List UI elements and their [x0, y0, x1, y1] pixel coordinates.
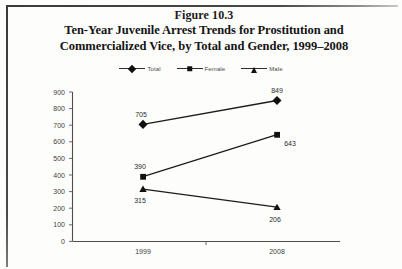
line-chart-svg: 900 800 700 600 500 400 300 200 100 0 19… [0, 0, 402, 269]
data-label-total-2008: 849 [271, 87, 283, 94]
y-tick-label-400: 400 [53, 172, 65, 179]
chart-plot-area: 900 800 700 600 500 400 300 200 100 0 19… [0, 0, 402, 269]
data-label-male-1999: 315 [134, 197, 146, 204]
y-tick-label-300: 300 [53, 188, 65, 195]
y-tick-label-0: 0 [61, 238, 65, 245]
data-label-female-1999: 390 [134, 163, 146, 170]
series-line-female [143, 135, 277, 177]
figure-page: Figure 10.3 Ten-Year Juvenile Arrest Tre… [0, 0, 402, 269]
y-tick-label-200: 200 [53, 205, 65, 212]
x-tick-label-1999: 1999 [135, 248, 151, 255]
data-point-female-1999 [140, 174, 146, 180]
series-line-male [143, 189, 277, 207]
data-label-total-1999: 705 [135, 111, 147, 118]
data-point-female-2008 [274, 132, 280, 138]
data-point-total-2008 [272, 96, 281, 105]
y-tick-label-500: 500 [53, 155, 65, 162]
y-tick-label-800: 800 [53, 105, 65, 112]
data-point-total-1999 [138, 120, 147, 129]
y-tick-label-700: 700 [53, 122, 65, 129]
y-tick-label-100: 100 [53, 221, 65, 228]
series-line-total [143, 101, 277, 125]
data-label-male-2008: 206 [269, 216, 281, 223]
data-label-female-2008: 643 [284, 140, 296, 147]
y-tick-label-600: 600 [53, 138, 65, 145]
y-tick-label-900: 900 [53, 89, 65, 96]
x-tick-label-2008: 2008 [269, 248, 285, 255]
